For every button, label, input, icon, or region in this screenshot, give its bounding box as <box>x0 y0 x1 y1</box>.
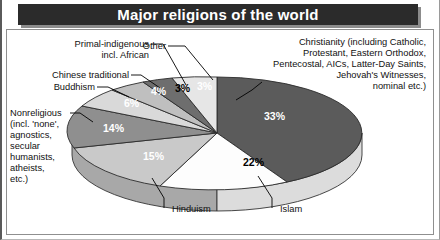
label-hinduism: Hinduism <box>172 204 211 214</box>
label-christianity: Christianity (including Catholic, Protes… <box>273 37 426 91</box>
pct-hinduism: 15% <box>143 150 165 162</box>
pct-other: 3% <box>197 80 213 92</box>
svg-text:Pentecostal, AICs, Latter-Day: Pentecostal, AICs, Latter-Day Saints, <box>273 59 426 69</box>
leader-other <box>168 46 213 80</box>
svg-text:secular: secular <box>10 141 40 151</box>
svg-text:Jehovah's Witnesses,: Jehovah's Witnesses, <box>336 70 426 80</box>
label-islam: Islam <box>280 204 302 214</box>
pct-buddhism: 6% <box>124 97 140 109</box>
pie-chart: 33% 22% 15% 14% 6% 4% 3% 3% Christianity… <box>0 0 440 240</box>
label-chinese-traditional: Chinese traditional <box>52 70 129 80</box>
svg-text:incl. African: incl. African <box>101 50 149 60</box>
label-primal-indigenous: Primal-indigenous incl. African <box>75 39 150 60</box>
pct-christianity: 33% <box>264 110 286 122</box>
svg-text:nominal etc.): nominal etc.) <box>373 81 426 91</box>
svg-text:humanists,: humanists, <box>10 152 55 162</box>
pct-nonreligious: 14% <box>103 122 125 134</box>
pct-primal-indigenous: 3% <box>175 82 191 94</box>
svg-text:Protestant, Eastern Orthodox,: Protestant, Eastern Orthodox, <box>303 48 426 58</box>
label-nonreligious: Nonreligious (incl. 'none', agnostics, s… <box>10 108 62 184</box>
pct-islam: 22% <box>243 156 265 168</box>
svg-text:agnostics,: agnostics, <box>10 130 52 140</box>
svg-text:Primal-indigenous: Primal-indigenous <box>75 39 150 49</box>
svg-text:(incl. 'none',: (incl. 'none', <box>10 119 59 129</box>
svg-text:etc.): etc.) <box>10 174 28 184</box>
svg-text:atheists,: atheists, <box>10 163 45 173</box>
label-buddhism: Buddhism <box>54 82 96 92</box>
chart-figure: Major religions of the world <box>0 0 440 240</box>
svg-text:Nonreligious: Nonreligious <box>10 108 62 118</box>
svg-text:Christianity (including Cathol: Christianity (including Catholic, <box>299 37 426 47</box>
